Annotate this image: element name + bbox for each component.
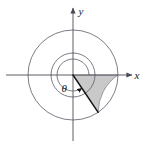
y-axis-label: y: [78, 5, 84, 17]
shaded-sector: [73, 75, 118, 112]
angle-label: θ: [62, 82, 68, 94]
x-axis-label: x: [134, 69, 140, 81]
polar-angle-figure: θ x y: [0, 0, 150, 145]
figure-canvas: θ x y: [0, 0, 150, 145]
